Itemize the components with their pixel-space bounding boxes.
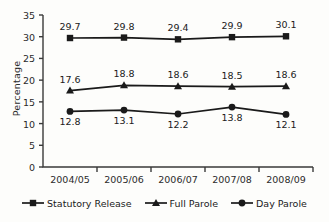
series-line [66, 81, 290, 93]
data-point-label: 17.6 [49, 74, 91, 85]
data-point-label: 18.8 [103, 68, 145, 79]
legend-label: Day Parole [256, 198, 307, 209]
data-point-marker [67, 35, 73, 41]
legend-item[interactable]: Day Parole [231, 197, 307, 209]
data-point-label: 29.8 [103, 21, 145, 32]
data-point-label: 18.5 [211, 70, 253, 81]
data-point-label: 13.1 [103, 115, 145, 126]
data-point-label: 18.6 [265, 69, 307, 80]
chart-legend: Statutory ReleaseFull ParoleDay Parole [0, 197, 329, 209]
data-point-label: 12.8 [49, 116, 91, 127]
legend-circle-marker-icon [231, 197, 253, 209]
legend-item[interactable]: Statutory Release [22, 197, 132, 209]
data-point-marker [121, 107, 128, 114]
data-point-label: 12.2 [157, 119, 199, 130]
data-point-label: 29.9 [211, 20, 253, 31]
data-point-label: 18.6 [157, 69, 199, 80]
data-point-marker [229, 104, 236, 111]
data-point-label: 12.1 [265, 119, 307, 130]
data-point-marker [67, 108, 74, 115]
legend-square-marker-icon [22, 197, 44, 209]
data-point-label: 29.7 [49, 21, 91, 32]
data-point-marker [283, 33, 289, 39]
line-chart: Percentage 05101520253035 2004/052005/06… [0, 0, 329, 222]
data-point-marker [229, 34, 235, 40]
data-point-label: 29.4 [157, 22, 199, 33]
legend-label: Full Parole [170, 198, 218, 209]
series-line [67, 104, 290, 118]
legend-triangle-marker-icon [145, 197, 167, 209]
data-point-marker [175, 111, 182, 118]
data-point-label: 13.8 [211, 112, 253, 123]
series-line [67, 33, 289, 42]
data-point-marker [283, 111, 290, 118]
data-point-marker [121, 34, 127, 40]
data-point-marker [175, 36, 181, 42]
legend-label: Statutory Release [47, 198, 132, 209]
data-point-label: 30.1 [265, 19, 307, 30]
legend-item[interactable]: Full Parole [145, 197, 218, 209]
